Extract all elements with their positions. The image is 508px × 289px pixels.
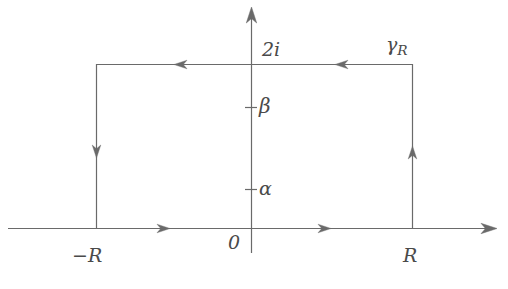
label-two-i: 2i (262, 40, 280, 59)
contour-path-gamma-r (96, 64, 413, 228)
figure-canvas: 2i β α 0 −R R γR (0, 0, 508, 289)
label-gamma-base: γ (386, 33, 397, 55)
label-gamma-subscript: R (397, 42, 407, 58)
label-gamma-r: γR (386, 35, 408, 58)
label-origin: 0 (228, 233, 240, 252)
contour-direction-arrows (92, 60, 417, 233)
real-axis (8, 223, 497, 233)
label-alpha: α (259, 179, 272, 198)
label-minus-r: −R (72, 246, 102, 265)
imaginary-axis (246, 7, 256, 253)
label-beta: β (259, 96, 271, 116)
label-r: R (403, 246, 417, 265)
